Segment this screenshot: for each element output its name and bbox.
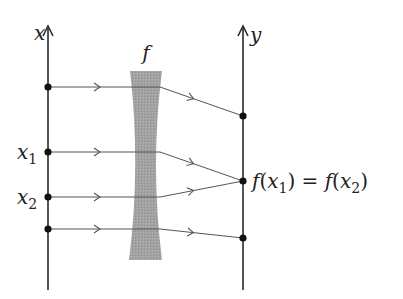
domain-point-dot: [44, 83, 51, 90]
function-lens: [129, 71, 162, 260]
ray-outgoing: [160, 181, 243, 197]
codomain-point-label: ff((x1) = f(x2): [250, 169, 368, 196]
function-diagram: f x y x1 x2 ff((x1) = f(x2): [0, 0, 403, 299]
domain-point-dot: [44, 148, 51, 155]
domain-point-label-x2: x2: [17, 185, 37, 212]
ray-outgoing: [160, 229, 243, 238]
domain-point-label-x1: x1: [17, 140, 37, 167]
codomain-point-dot: [239, 177, 246, 184]
diagram-canvas: f x y x1 x2 ff((x1) = f(x2): [0, 0, 403, 299]
ray-outgoing: [160, 87, 243, 116]
ray-outgoing: [160, 152, 243, 181]
domain-point-dot: [44, 225, 51, 232]
codomain-point-dot: [239, 234, 246, 241]
codomain-point-dot: [239, 112, 246, 119]
domain-axis-label: x: [34, 21, 45, 45]
function-label: f: [140, 41, 153, 65]
domain-point-dot: [44, 193, 51, 200]
codomain-axis-label: y: [249, 23, 262, 47]
